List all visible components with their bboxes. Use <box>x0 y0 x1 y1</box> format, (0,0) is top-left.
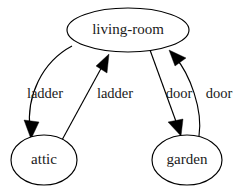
node-label-garden: garden <box>167 151 208 167</box>
arrowhead-icon <box>169 50 186 66</box>
graph-diagram: living-room attic garden ladder ladder d… <box>0 0 240 192</box>
arrowhead-icon <box>168 119 183 136</box>
edge-label-garden-to-livingroom: door <box>206 85 233 101</box>
graph-canvas: living-room attic garden ladder ladder d… <box>0 0 240 192</box>
node-label-attic: attic <box>31 151 57 167</box>
edge-path-attic-to-livingroom <box>62 63 104 140</box>
edge-label-livingroom-to-attic: ladder <box>27 85 63 101</box>
node-garden[interactable]: garden <box>152 135 222 185</box>
edge-label-group: ladder ladder door door <box>27 85 233 101</box>
node-living-room[interactable]: living-room <box>67 8 189 52</box>
arrowhead-icon <box>96 54 109 73</box>
node-label-living-room: living-room <box>92 21 164 37</box>
node-attic[interactable]: attic <box>11 135 77 185</box>
edge-label-livingroom-to-garden: door <box>166 85 193 101</box>
edge-label-attic-to-livingroom: ladder <box>97 85 133 101</box>
